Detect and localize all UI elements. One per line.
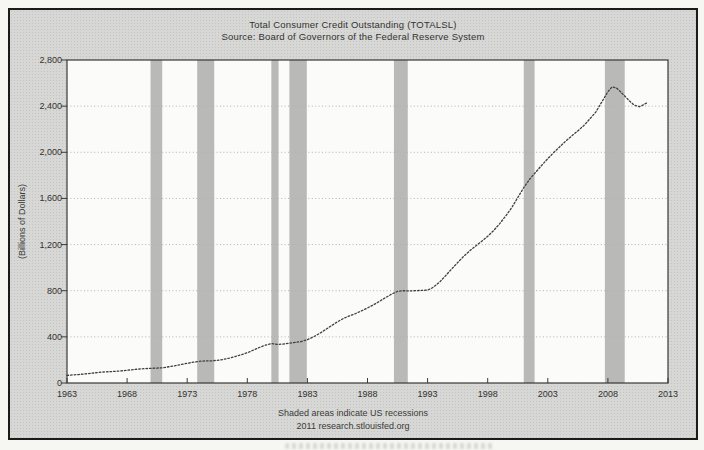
x-tick-label: 2013 (651, 389, 685, 400)
x-tick-label: 1968 (110, 389, 144, 400)
y-tick-label: 0 (16, 378, 62, 389)
y-tick-label: 1,200 (16, 240, 62, 251)
fred-chart-figure: Total Consumer Credit Outstanding (TOTAL… (8, 8, 698, 440)
x-tick-label: 2003 (531, 389, 565, 400)
y-tick-label: 800 (16, 286, 62, 297)
recession-band (289, 60, 306, 383)
x-tick-label: 1988 (351, 389, 385, 400)
x-tick-label: 1993 (411, 389, 445, 400)
x-tick-label: 1983 (290, 389, 324, 400)
scanned-page: Total Consumer Credit Outstanding (TOTAL… (0, 0, 704, 450)
recession-band (197, 60, 214, 383)
scan-artifact-strip (285, 443, 495, 449)
chart-footer-block: Shaded areas indicate US recessions 2011… (10, 407, 696, 433)
y-tick-label: 400 (16, 332, 62, 343)
x-tick-label: 1963 (50, 389, 84, 400)
y-tick-label: 2,400 (16, 101, 62, 112)
y-tick-label: 1,600 (16, 193, 62, 204)
x-tick-label: 1978 (230, 389, 264, 400)
recession-band (151, 60, 163, 383)
recession-band (605, 60, 625, 383)
x-tick-label: 1998 (471, 389, 505, 400)
x-tick-label: 2008 (591, 389, 625, 400)
recession-note: Shaded areas indicate US recessions (10, 407, 696, 420)
recession-band (524, 60, 535, 383)
recession-band (271, 60, 278, 383)
y-tick-label: 2,800 (16, 55, 62, 66)
chart-plot-svg (10, 10, 696, 438)
x-tick-label: 1973 (170, 389, 204, 400)
attribution: 2011 research.stlouisfed.org (10, 420, 696, 433)
y-tick-label: 2,000 (16, 147, 62, 158)
recession-band (394, 60, 408, 383)
